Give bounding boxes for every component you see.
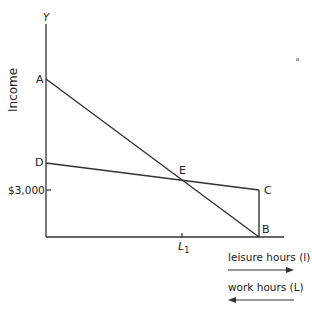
point-d-label: D bbox=[35, 157, 43, 168]
point-c-label: C bbox=[264, 185, 272, 196]
x-tick-sub: 1 bbox=[184, 246, 189, 255]
point-a-label: A bbox=[36, 74, 44, 85]
point-b-label: B bbox=[262, 224, 270, 235]
y-axis-label: Income bbox=[7, 68, 19, 112]
x-tick-label: L1 bbox=[178, 241, 189, 255]
leisure-arrowhead-icon bbox=[286, 267, 294, 273]
work-arrowhead-icon bbox=[228, 297, 236, 303]
work-hours-label: work hours (L) bbox=[228, 282, 304, 293]
line-dc bbox=[46, 163, 259, 190]
leisure-hours-label: leisure hours (l) bbox=[228, 252, 310, 263]
line-ab bbox=[46, 79, 259, 237]
stray-dot bbox=[296, 58, 299, 61]
point-e-label: E bbox=[179, 165, 186, 176]
diagram-canvas bbox=[0, 0, 312, 319]
y-axis-symbol: Y bbox=[43, 13, 49, 23]
y-tick-label: $3,000 bbox=[8, 185, 45, 196]
